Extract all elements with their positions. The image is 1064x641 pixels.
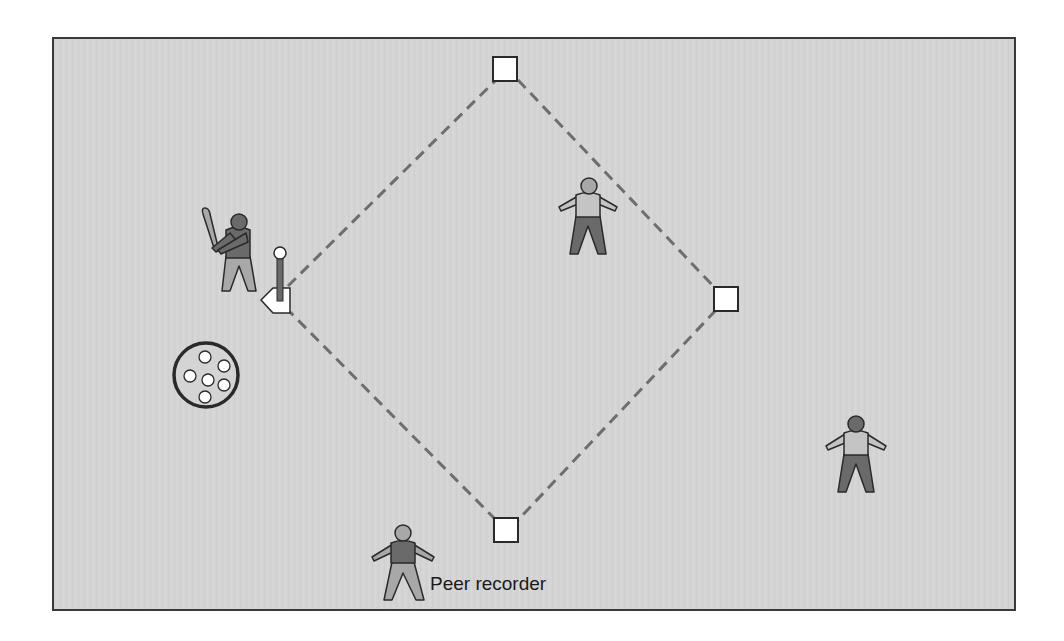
peer-recorder-label: Peer recorder xyxy=(430,573,547,594)
field-background xyxy=(53,38,1015,610)
diagram-canvas: Peer recorder xyxy=(0,0,1064,641)
ball-bucket xyxy=(174,343,238,407)
ball-on-tee xyxy=(274,247,286,259)
second-base xyxy=(493,57,517,81)
first-base xyxy=(714,287,738,311)
third-base xyxy=(494,518,518,542)
